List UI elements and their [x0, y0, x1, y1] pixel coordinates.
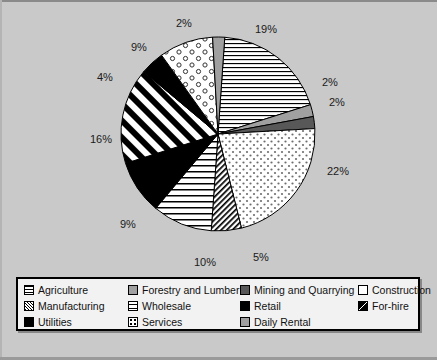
legend-item-label: Utilities [38, 317, 72, 328]
legend-swatch-gray-icon [240, 317, 250, 327]
legend-item-label: Daily Rental [254, 317, 311, 328]
pie-percentage-label: 5% [253, 251, 269, 263]
legend-swatch-white-icon [358, 285, 368, 295]
legend-item-label: For-hire [372, 301, 409, 312]
legend-item-forestry-and-lumber[interactable]: Forestry and Lumber [128, 282, 240, 298]
legend-item-services[interactable]: Services [128, 314, 240, 330]
legend-item-label: Forestry and Lumber [142, 285, 239, 296]
legend-swatch-diag-tri-icon [358, 301, 368, 311]
pie-percentage-label: 16% [90, 133, 112, 145]
legend-swatch-black-icon [24, 317, 34, 327]
legend-item-construction[interactable]: Construction [358, 282, 422, 298]
pie-percentage-label: 2% [322, 76, 338, 88]
pie-percentage-label: 4% [97, 71, 113, 83]
pie-percentage-label: 10% [194, 256, 216, 268]
pie-percentage-label: 19% [255, 23, 277, 35]
legend-item-manufacturing[interactable]: Manufacturing [24, 298, 128, 314]
legend-swatch-darkgray-icon [240, 285, 250, 295]
legend-item-agriculture[interactable]: Agriculture [24, 282, 128, 298]
legend-item-wholesale[interactable]: Wholesale [128, 298, 240, 314]
legend-item-label: Services [142, 317, 182, 328]
figure-frame-top [0, 0, 437, 2]
legend-swatch-dots-icon [128, 317, 138, 327]
legend-item-daily-rental[interactable]: Daily Rental [240, 314, 358, 330]
pie-chart-svg [0, 3, 437, 275]
legend-item-mining-and-quarrying[interactable]: Mining and Quarrying [240, 282, 358, 298]
pie-percentage-label: 22% [327, 165, 349, 177]
chart-legend: AgricultureForestry and LumberMining and… [16, 277, 420, 331]
legend-swatch-gray-icon [128, 285, 138, 295]
legend-grid: AgricultureForestry and LumberMining and… [18, 279, 418, 330]
legend-item-retail[interactable]: Retail [240, 298, 358, 314]
legend-item-label: Mining and Quarrying [254, 285, 354, 296]
legend-item-label: Retail [254, 301, 281, 312]
legend-item-for-hire[interactable]: For-hire [358, 298, 422, 314]
legend-swatch-hlines-icon [24, 285, 34, 295]
legend-swatch-hatch-dense-icon [24, 301, 34, 311]
legend-item-label: Construction [372, 285, 431, 296]
pie-percentage-label: 2% [176, 17, 192, 29]
legend-item-label: Agriculture [38, 285, 88, 296]
legend-swatch-black-icon [240, 301, 250, 311]
pie-percentage-label: 9% [120, 218, 136, 230]
pie-percentage-label: 9% [131, 41, 147, 53]
legend-item-label: Manufacturing [38, 301, 105, 312]
legend-item-utilities[interactable]: Utilities [24, 314, 128, 330]
pie-percentage-label: 2% [329, 96, 345, 108]
pie-chart-plot-area: 2%19%2%2%22%5%10%9%16%4%9% [0, 3, 437, 275]
pie-slice-group [121, 37, 315, 231]
chart-figure: 2%19%2%2%22%5%10%9%16%4%9% AgricultureFo… [0, 0, 437, 360]
legend-swatch-hlines-wide-icon [128, 301, 138, 311]
legend-item-label: Wholesale [142, 301, 191, 312]
